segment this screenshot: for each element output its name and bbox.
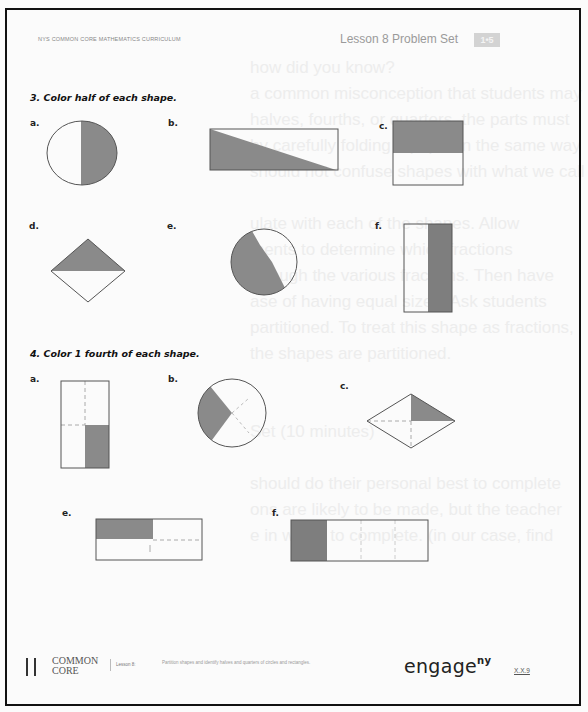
page-number: X.X.9 [514,667,530,674]
q4f-rectangle-shape [291,520,428,561]
brand-sup: ny [477,655,491,666]
q4c-rhombus-shape [367,394,455,448]
footer-description: Partition shapes and identify halves and… [162,659,347,666]
logo-line-2: CORE [52,666,98,676]
common-core-logo-icon [26,658,36,676]
common-core-logo-text: COMMON CORE [52,656,98,676]
q3f-rectangle-shape [404,224,452,312]
shapes-canvas [0,0,588,712]
q4a-rectangle-shape [61,381,109,468]
engage-ny-logo: engageny [404,655,491,677]
footer-lesson: Lesson 8: [116,662,136,667]
q4e-rectangle-shape [96,519,202,560]
footer-divider [110,659,111,671]
brand-text: engage [404,655,477,677]
q3c-square-shape [393,121,463,185]
q3d-rhombus-shape [51,239,125,302]
q4b-circle-shape [190,379,266,447]
q3b-rectangle-shape [210,129,338,170]
q3a-circle-shape [47,118,121,188]
q3e-circle-shape [218,224,297,300]
